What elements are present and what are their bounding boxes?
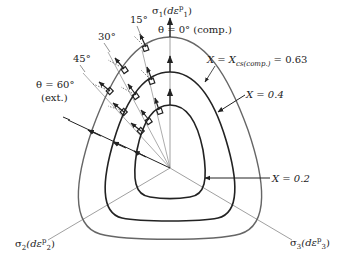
theta60-ext-label: (ext.) (41, 92, 68, 104)
normal-arrows-intermediate (99, 34, 163, 135)
sigma2-label: σ2(dεp2) (15, 238, 55, 250)
x-middle-label: X = 0.4 (246, 89, 284, 101)
angle-45-label: 45° (73, 53, 91, 65)
x-inner-label: X = 0.2 (272, 173, 310, 185)
radial-lines (68, 50, 170, 168)
dashed-indicators (93, 36, 148, 110)
sigma1-label: σ1(dεp1) (152, 5, 192, 17)
sigma3-label: σ3(dεp3) (290, 237, 330, 249)
x-label-arrows (205, 66, 270, 178)
normal-arrows-theta60 (88, 130, 146, 157)
yield-surface-diagram (0, 0, 338, 268)
sigma2-axis (48, 168, 170, 240)
x-outer-label: X = Xcs(comp.) = 0.63 (207, 54, 307, 66)
angle-15-label: 15° (130, 14, 148, 26)
theta0-label: θ = 0° (comp.) (158, 24, 232, 36)
theta60-label: θ = 60° (36, 79, 74, 91)
angle-30-label: 30° (98, 31, 116, 43)
